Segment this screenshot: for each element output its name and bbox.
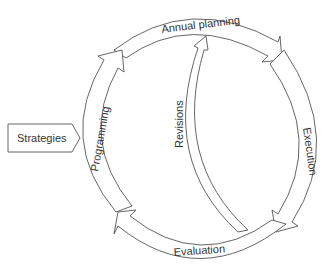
strategies-box: Strategies — [8, 124, 80, 152]
execution-arrow: Execution — [270, 50, 320, 232]
revisions-arrow: Revisions — [173, 36, 248, 232]
programming-arrow: Programming — [83, 50, 132, 212]
revisions-label: Revisions — [173, 100, 185, 148]
strategies-label: Strategies — [17, 132, 67, 144]
planning-cycle-diagram: Strategies Annual planning Execution Eva… — [0, 0, 324, 268]
evaluation-arrow: Evaluation — [114, 210, 286, 259]
